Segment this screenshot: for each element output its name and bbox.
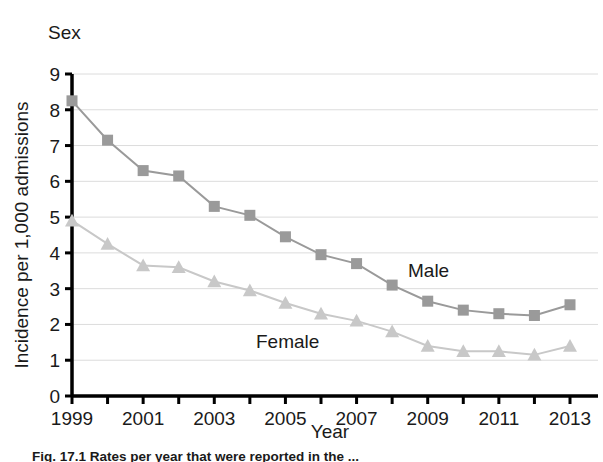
data-point-male <box>458 305 469 316</box>
y-tick-label: 4 <box>49 243 60 264</box>
y-tick-label: 5 <box>49 207 60 228</box>
x-tick-label: 2013 <box>549 408 591 429</box>
data-point-male <box>138 165 149 176</box>
y-tick-label: 0 <box>49 386 60 407</box>
y-tick-label: 6 <box>49 171 60 192</box>
y-axis-title: Incidence per 1,000 admissions <box>11 101 32 368</box>
data-point-male <box>565 299 576 310</box>
data-point-female <box>65 214 79 227</box>
data-point-female <box>421 339 435 352</box>
data-point-male <box>102 135 113 146</box>
x-tick-label: 2005 <box>264 408 306 429</box>
data-point-male <box>387 280 398 291</box>
x-tick-label: 2001 <box>122 408 164 429</box>
series-line-female <box>72 221 570 355</box>
y-tick-label: 1 <box>49 350 60 371</box>
y-tick-label: 8 <box>49 100 60 121</box>
data-point-female <box>563 339 577 352</box>
axes <box>72 74 598 396</box>
y-tick-label: 3 <box>49 279 60 300</box>
series-label-female: Female <box>256 331 319 352</box>
data-point-male <box>173 170 184 181</box>
x-axis-title: Year <box>311 421 350 442</box>
y-tick-label: 2 <box>49 314 60 335</box>
data-point-male <box>209 201 220 212</box>
data-point-male <box>493 308 504 319</box>
series-line-male <box>72 101 570 316</box>
series-label-male: Male <box>408 260 449 281</box>
data-point-female <box>101 237 115 250</box>
data-point-male <box>280 231 291 242</box>
data-point-female <box>278 296 292 309</box>
data-point-male <box>422 296 433 307</box>
x-tick-label: 2003 <box>193 408 235 429</box>
series-markers <box>65 95 577 360</box>
x-tick-label: 1999 <box>51 408 93 429</box>
data-point-male <box>67 95 78 106</box>
y-tick-label: 9 <box>49 64 60 85</box>
figure-caption: Fig. 17.1 Rates per year that were repor… <box>32 449 592 462</box>
data-point-male <box>244 210 255 221</box>
line-chart: 0123456789 19992001200320052007200920112… <box>0 0 603 445</box>
data-point-female <box>207 275 221 288</box>
x-tick-label: 2009 <box>407 408 449 429</box>
data-point-male <box>529 310 540 321</box>
data-point-male <box>316 249 327 260</box>
x-tick-label: 2011 <box>478 408 519 429</box>
figure-container: Sex 0123456789 1999200120032005200720092… <box>0 0 603 462</box>
y-tick-label: 7 <box>49 136 60 157</box>
y-axis-tick-labels: 0123456789 <box>49 64 60 407</box>
data-point-male <box>351 258 362 269</box>
